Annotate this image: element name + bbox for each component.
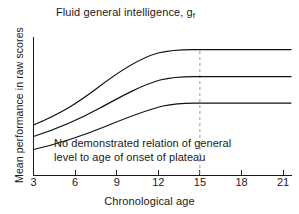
x-tick-label-21: 21	[277, 176, 289, 188]
x-tick-label-9: 9	[114, 176, 120, 188]
plateau-annotation-line-1: No demonstrated relation of general	[54, 136, 231, 150]
x-axis-label: Chronological age	[0, 195, 299, 207]
x-tick-label-3: 3	[30, 176, 36, 188]
x-tick-label-12: 12	[152, 176, 164, 188]
x-tick-label-6: 6	[72, 176, 78, 188]
plateau-annotation: No demonstrated relation of general leve…	[54, 136, 231, 164]
x-tick-label-18: 18	[235, 176, 247, 188]
x-axis-tick-labels: 3 6 9 12 15 18 21	[0, 176, 299, 192]
x-axis-ticks	[34, 170, 284, 176]
x-tick-label-15: 15	[194, 176, 206, 188]
plateau-annotation-line-2: level to age of onset of plateau	[54, 150, 231, 164]
chart-figure: Fluid general intelligence, gf Mean perf…	[0, 0, 299, 214]
curve-high-level	[34, 50, 292, 126]
